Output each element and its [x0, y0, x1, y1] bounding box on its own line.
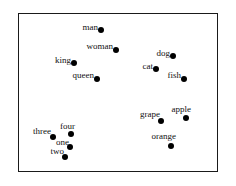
- point-label-grape: grape: [140, 110, 160, 119]
- point-dot-grape: [158, 118, 164, 124]
- point-dot-fish: [181, 76, 187, 82]
- point-dot-apple: [183, 115, 189, 121]
- point-label-man: man: [83, 23, 99, 32]
- point-dot-one: [67, 144, 73, 150]
- point-label-dog: dog: [157, 49, 171, 58]
- point-label-four: four: [60, 122, 75, 131]
- point-dot-man: [98, 27, 104, 33]
- point-label-fish: fish: [168, 71, 182, 80]
- point-dot-woman: [113, 47, 119, 53]
- point-label-cat: cat: [143, 62, 154, 71]
- point-label-apple: apple: [172, 105, 192, 114]
- point-dot-queen: [94, 76, 100, 82]
- point-dot-dog: [170, 53, 176, 59]
- point-label-king: king: [55, 56, 71, 65]
- point-dot-orange: [168, 143, 174, 149]
- word-embedding-plot: manwomankingqueendogcatfishapplegrapeora…: [0, 0, 236, 186]
- point-label-woman: woman: [87, 42, 114, 51]
- scatter-points-layer: manwomankingqueendogcatfishapplegrapeora…: [0, 0, 236, 186]
- point-label-queen: queen: [73, 71, 95, 80]
- point-dot-king: [71, 60, 77, 66]
- point-label-three: three: [33, 127, 51, 136]
- point-dot-cat: [153, 66, 159, 72]
- point-label-orange: orange: [152, 132, 177, 141]
- point-dot-two: [62, 154, 68, 160]
